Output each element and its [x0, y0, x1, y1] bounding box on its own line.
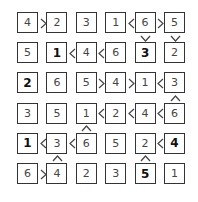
cell[interactable]: 2 — [46, 12, 67, 33]
greater-than-icon — [39, 13, 47, 33]
given-cell: 4 — [164, 133, 185, 154]
given-cell: 5 — [135, 163, 156, 184]
given-cell: 2 — [17, 72, 38, 93]
less-than-icon — [157, 73, 165, 93]
cell[interactable]: 1 — [105, 12, 126, 33]
less-than-icon — [39, 134, 47, 154]
cell[interactable]: 1 — [164, 163, 185, 184]
cell[interactable]: 3 — [105, 163, 126, 184]
cell[interactable]: 4 — [17, 12, 38, 33]
cell[interactable]: 5 — [17, 42, 38, 63]
futoshiki-board: 423165514632265413351246136524642351 — [0, 0, 198, 202]
less-than-icon — [68, 134, 76, 154]
cell[interactable]: 3 — [76, 12, 97, 33]
greater-than-down-icon — [136, 34, 156, 42]
cell[interactable]: 2 — [105, 103, 126, 124]
less-than-icon — [127, 13, 135, 33]
cell[interactable]: 4 — [76, 42, 97, 63]
cell[interactable]: 4 — [105, 72, 126, 93]
cell[interactable]: 6 — [46, 72, 67, 93]
less-than-icon — [157, 104, 165, 124]
given-cell: 1 — [17, 133, 38, 154]
cell[interactable]: 3 — [164, 72, 185, 93]
less-than-icon — [98, 43, 106, 63]
cell[interactable]: 5 — [46, 103, 67, 124]
cell[interactable]: 3 — [46, 133, 67, 154]
less-than-up-icon — [77, 125, 97, 133]
cell[interactable]: 4 — [135, 103, 156, 124]
cell[interactable]: 6 — [164, 103, 185, 124]
less-than-icon — [68, 43, 76, 63]
cell[interactable]: 4 — [46, 163, 67, 184]
cell[interactable]: 5 — [76, 72, 97, 93]
greater-than-icon — [157, 13, 165, 33]
greater-than-icon — [127, 73, 135, 93]
cell[interactable]: 2 — [135, 133, 156, 154]
less-than-up-icon — [165, 94, 185, 102]
given-cell: 1 — [46, 42, 67, 63]
less-than-icon — [98, 104, 106, 124]
cell[interactable]: 2 — [164, 42, 185, 63]
cell[interactable]: 3 — [17, 103, 38, 124]
cell[interactable]: 5 — [105, 133, 126, 154]
cell[interactable]: 5 — [164, 12, 185, 33]
cell[interactable]: 6 — [135, 12, 156, 33]
less-than-icon — [157, 134, 165, 154]
greater-than-icon — [39, 164, 47, 184]
greater-than-down-icon — [165, 34, 185, 42]
cell[interactable]: 2 — [76, 163, 97, 184]
cell[interactable]: 6 — [76, 133, 97, 154]
cell[interactable]: 6 — [17, 163, 38, 184]
less-than-up-icon — [136, 155, 156, 163]
less-than-up-icon — [47, 155, 67, 163]
less-than-icon — [127, 104, 135, 124]
greater-than-icon — [98, 73, 106, 93]
cell[interactable]: 6 — [105, 42, 126, 63]
cell[interactable]: 1 — [135, 72, 156, 93]
given-cell: 3 — [135, 42, 156, 63]
cell[interactable]: 1 — [76, 103, 97, 124]
